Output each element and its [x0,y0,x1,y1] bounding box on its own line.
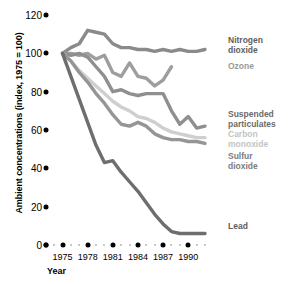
legend-item: Carbonmonoxide [228,130,268,149]
series-line [63,53,206,233]
legend-item: Suspendedparticulates [228,110,276,129]
legend-item-label: Ozone [228,62,254,72]
legend-item-label-2: monoxide [228,140,268,150]
legend-item: Nitrogendioxide [228,36,263,55]
x-axis-title: Year [47,266,66,276]
legend-item-label-2: dioxide [228,46,263,56]
legend-item: Lead [228,222,248,232]
series-line [63,30,206,53]
legend-item: Ozone [228,62,254,72]
legend-item: Sulfurdioxide [228,152,258,171]
legend-item-label-2: particulates [228,120,276,130]
legend-item-label-2: dioxide [228,162,258,172]
pollution-index-line-chart: Ambient concentrations (index, 1975 = 10… [0,0,294,284]
legend-item-label: Lead [228,222,248,232]
